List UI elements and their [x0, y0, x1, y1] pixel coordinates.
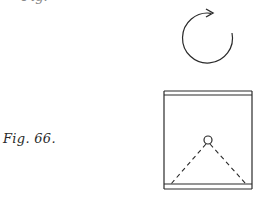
- pivot-circle-icon: [204, 136, 212, 144]
- dashed-line-left: [171, 144, 206, 184]
- dashed-lines: [171, 144, 246, 184]
- dashed-line-right: [210, 144, 246, 184]
- clockwise-rotation-arrow-icon: [183, 9, 233, 63]
- figure-diagram: [0, 0, 255, 211]
